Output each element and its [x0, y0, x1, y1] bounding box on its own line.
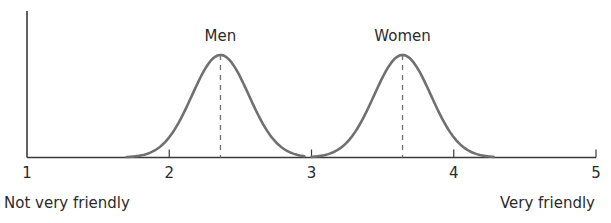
x-axis-left-end-label: Not very friendly — [4, 196, 130, 211]
distribution-curves — [127, 55, 494, 158]
x-tick-label: 1 — [22, 166, 32, 181]
x-tick-label: 5 — [591, 166, 601, 181]
distribution-curve-men — [127, 55, 305, 157]
x-tick-label: 2 — [164, 166, 174, 181]
x-axis-right-end-label: Very friendly — [500, 196, 595, 211]
x-tick-label: 4 — [449, 166, 459, 181]
chart-plot-area — [0, 0, 611, 223]
series-label-women: Women — [374, 29, 430, 44]
x-axis-ticks — [169, 150, 596, 158]
series-label-men: Men — [205, 29, 237, 44]
x-tick-label: 3 — [307, 166, 317, 181]
